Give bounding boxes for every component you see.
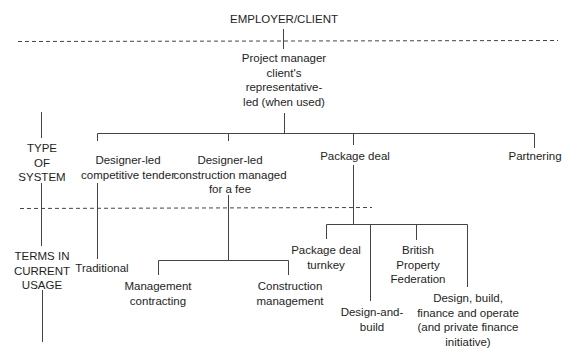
project-manager-node: Project manager client's representative-… xyxy=(229,51,339,109)
employer-client-node: EMPLOYER/CLIENT xyxy=(226,12,342,27)
term-construction-management: Construction management xyxy=(248,279,332,308)
term-package-deal-turnkey: Package deal turnkey xyxy=(286,243,366,272)
terms-in-usage-label: TERMS IN CURRENT USAGE xyxy=(4,249,80,293)
dashed-divider-top xyxy=(18,41,558,42)
system-partnering: Partnering xyxy=(500,149,570,164)
term-design-and-build: Design-and- build xyxy=(334,305,410,334)
term-british-property-federation: British Property Federation xyxy=(380,243,456,287)
dashed-divider-middle xyxy=(20,208,372,209)
system-package-deal: Package deal xyxy=(310,149,400,164)
term-traditional: Traditional xyxy=(74,261,130,276)
type-of-system-label: TYPE OF SYSTEM xyxy=(6,141,78,185)
term-management-contracting: Management contracting xyxy=(120,279,196,308)
system-designer-led-construction-managed: Designer-led construction managed for a … xyxy=(170,153,290,197)
system-designer-led-competitive-tender: Designer-led competitive tender xyxy=(72,153,184,182)
term-design-build-finance-operate: Design, build, finance and operate (and … xyxy=(410,291,526,349)
